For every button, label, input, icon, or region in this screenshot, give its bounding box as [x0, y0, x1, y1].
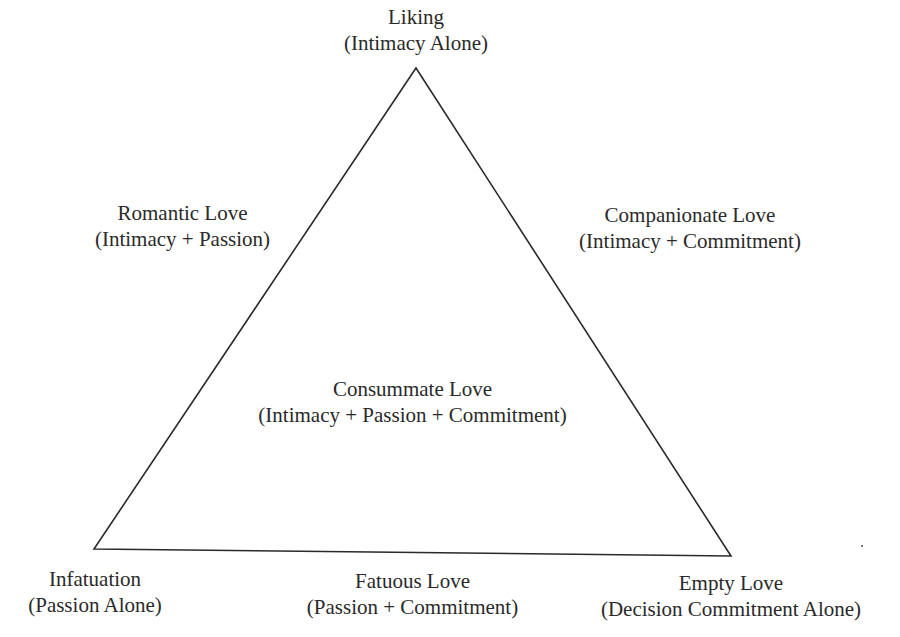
infatuation-name: Infatuation: [0, 566, 190, 592]
edge-right-label: Companionate Love (Intimacy + Commitment…: [540, 202, 840, 254]
vertex-top-label: Liking (Intimacy Alone): [316, 4, 516, 56]
consummate-name: Consummate Love: [200, 376, 625, 402]
companionate-name: Companionate Love: [540, 202, 840, 228]
liking-desc: (Intimacy Alone): [316, 30, 516, 56]
infatuation-desc: (Passion Alone): [0, 592, 190, 618]
fatuous-name: Fatuous Love: [270, 568, 555, 594]
love-triangle: [0, 0, 900, 637]
empty-love-desc: (Decision Commitment Alone): [562, 596, 900, 622]
consummate-desc: (Intimacy + Passion + Commitment): [200, 402, 625, 428]
romantic-desc: (Intimacy + Passion): [80, 226, 285, 252]
romantic-name: Romantic Love: [80, 200, 285, 226]
vertex-bottom-right-label: Empty Love (Decision Commitment Alone): [562, 570, 900, 622]
empty-love-name: Empty Love: [562, 570, 900, 596]
companionate-desc: (Intimacy + Commitment): [540, 228, 840, 254]
liking-name: Liking: [316, 4, 516, 30]
triangle-outline: [94, 68, 731, 556]
fatuous-desc: (Passion + Commitment): [270, 594, 555, 620]
edge-bottom-label: Fatuous Love (Passion + Commitment): [270, 568, 555, 620]
speck: [861, 545, 863, 547]
edge-left-label: Romantic Love (Intimacy + Passion): [80, 200, 285, 252]
vertex-bottom-left-label: Infatuation (Passion Alone): [0, 566, 190, 618]
center-label: Consummate Love (Intimacy + Passion + Co…: [200, 376, 625, 428]
